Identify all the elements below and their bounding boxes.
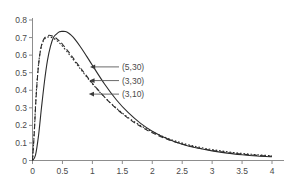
y-tick-label: 0.1 (15, 138, 27, 148)
curve-group (33, 31, 273, 160)
x-tick-marks (33, 161, 273, 165)
density-curves-chart: 00.10.20.30.40.50.60.70.8 00.511.522.533… (0, 0, 293, 182)
x-tick-label: 0.5 (57, 166, 69, 176)
annotation-label: (3,30) (122, 76, 144, 86)
annotation-label: (3,10) (122, 89, 144, 99)
y-tick-marks (29, 20, 33, 161)
y-tick-labels: 00.10.20.30.40.50.60.70.8 (15, 15, 27, 166)
y-tick-label: 0 (22, 156, 27, 166)
y-tick-label: 0.2 (15, 120, 27, 130)
annotation-group: (5,30)(3,30)(3,10) (89, 62, 145, 99)
annotation-arrowhead (89, 92, 94, 97)
y-tick-label: 0.6 (15, 50, 27, 60)
x-tick-label: 0 (30, 166, 35, 176)
curve-310 (33, 37, 273, 161)
y-tick-label: 0.7 (15, 33, 27, 43)
chart-figure: 00.10.20.30.40.50.60.70.8 00.511.522.533… (0, 0, 293, 182)
x-tick-label: 3 (210, 166, 215, 176)
y-tick-label: 0.4 (15, 85, 27, 95)
y-tick-label: 0.5 (15, 68, 27, 78)
y-axis: 00.10.20.30.40.50.60.70.8 (15, 15, 32, 166)
y-tick-label: 0.8 (15, 15, 27, 25)
annotation-label: (5,30) (122, 62, 144, 72)
x-tick-label: 3.5 (236, 166, 248, 176)
x-tick-label: 4 (270, 166, 275, 176)
x-tick-labels: 00.511.522.533.54 (30, 166, 275, 176)
y-tick-label: 0.3 (15, 103, 27, 113)
x-tick-label: 2.5 (176, 166, 188, 176)
x-axis: 00.511.522.533.54 (30, 161, 284, 177)
x-tick-label: 1 (90, 166, 95, 176)
x-tick-label: 1.5 (116, 166, 128, 176)
x-tick-label: 2 (150, 166, 155, 176)
